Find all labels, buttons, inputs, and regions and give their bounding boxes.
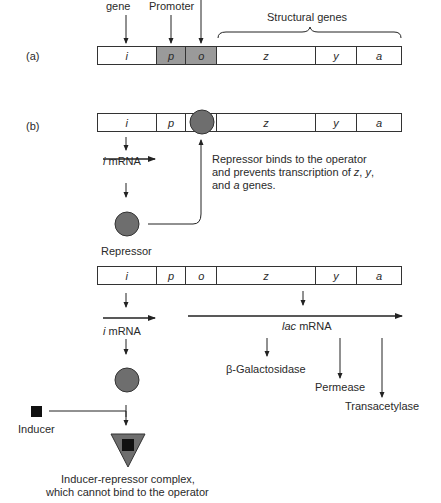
diagram-graphics xyxy=(0,0,441,503)
repressor-icon xyxy=(115,212,139,236)
binding-arrow xyxy=(148,140,201,224)
repressor-bound-icon xyxy=(190,110,214,134)
bound-inducer-icon xyxy=(122,439,134,451)
inducer-icon xyxy=(31,406,42,417)
label-arrows xyxy=(126,0,401,43)
repressor-icon-c xyxy=(115,368,139,392)
structural-genes-brace xyxy=(218,27,401,38)
